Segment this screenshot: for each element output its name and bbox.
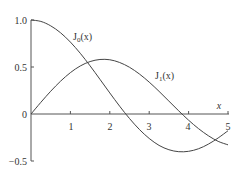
j1-label-arg: (x) [162, 70, 174, 82]
x-axis-label: x [216, 100, 222, 111]
y-tick-label-neg0.5: −0.5 [9, 156, 27, 167]
x-tick-label-4: 4 [186, 121, 191, 132]
j0-label: J0(x) [73, 31, 92, 44]
y-tick-label-0: 0 [22, 109, 27, 120]
x-tick-label-2: 2 [108, 121, 113, 132]
x-tick-label-1: 1 [69, 121, 74, 132]
y-tick-label-1: 1.0 [15, 15, 28, 26]
j0-label-arg: (x) [80, 31, 92, 43]
x-tick-label-3: 3 [147, 121, 152, 132]
j1-label: J1(x) [155, 70, 174, 83]
x-tick-label-5: 5 [226, 121, 231, 132]
j1-curve [31, 59, 228, 145]
j0-curve [31, 20, 228, 152]
y-tick-label-0.5: 0.5 [15, 62, 28, 73]
bessel-chart: 1.0 0.5 0 −0.5 1 2 3 4 5 x J0(x) J1(x) [0, 0, 241, 175]
